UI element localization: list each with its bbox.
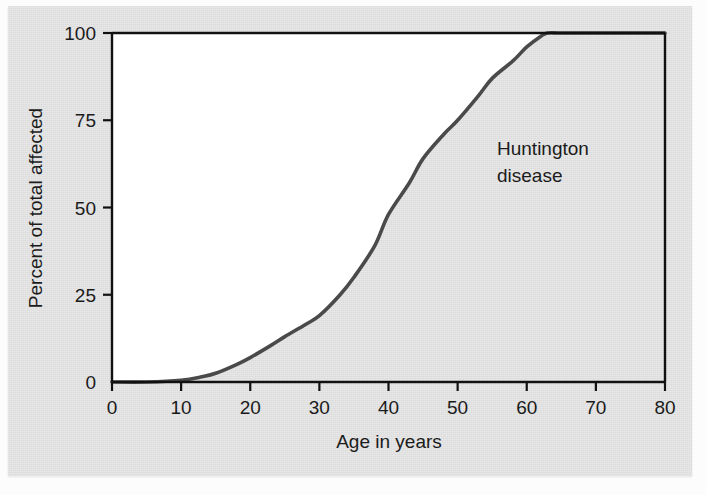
x-axis-title: Age in years	[336, 431, 442, 452]
y-tick-label-100: 100	[64, 23, 96, 44]
plot-unfilled-area	[112, 33, 665, 382]
y-tick-label-0: 0	[85, 372, 96, 393]
y-tick-label-75: 75	[75, 110, 96, 131]
x-tick-label-70: 70	[585, 397, 606, 418]
x-tick-label-20: 20	[240, 397, 261, 418]
y-axis-ticks	[103, 33, 112, 295]
x-tick-label-10: 10	[171, 397, 192, 418]
x-tick-label-0: 0	[107, 397, 118, 418]
x-axis-ticks	[112, 382, 665, 391]
chart-canvas: 01020304050607080 0255075100 Age in year…	[0, 0, 706, 495]
series-annotation-line-1: Huntington	[497, 138, 589, 159]
x-tick-label-60: 60	[516, 397, 537, 418]
y-tick-label-25: 25	[75, 285, 96, 306]
series-annotation-line-2: disease	[497, 165, 563, 186]
x-axis-tick-labels: 01020304050607080	[107, 397, 676, 418]
y-tick-label-50: 50	[75, 198, 96, 219]
x-tick-label-40: 40	[378, 397, 399, 418]
y-axis-title: Percent of total affected	[25, 108, 46, 308]
x-tick-label-30: 30	[309, 397, 330, 418]
y-axis-tick-labels: 0255075100	[64, 23, 96, 393]
x-tick-label-50: 50	[447, 397, 468, 418]
x-tick-label-80: 80	[654, 397, 675, 418]
figure-container: 01020304050607080 0255075100 Age in year…	[0, 0, 706, 495]
